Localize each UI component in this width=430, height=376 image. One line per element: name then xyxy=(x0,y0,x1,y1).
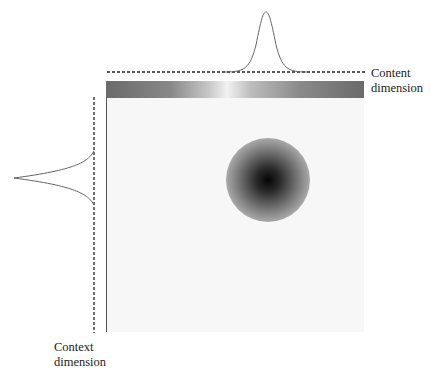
diagram-lines xyxy=(0,0,430,376)
context-label-line1: Context xyxy=(54,340,106,355)
context-label-line2: dimension xyxy=(54,355,106,370)
context-gaussian-curve xyxy=(14,151,94,205)
content-dimension-label: Content dimension xyxy=(371,66,423,96)
context-dimension-label: Context dimension xyxy=(54,340,106,370)
content-label-line1: Content xyxy=(371,66,423,81)
content-label-line2: dimension xyxy=(371,81,423,96)
content-gaussian-curve xyxy=(225,12,307,72)
